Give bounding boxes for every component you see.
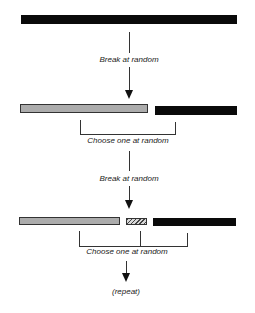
arrow-2-top-line (129, 151, 130, 171)
bracket-1-left (80, 120, 81, 135)
step-label-choose-2: Choose one at random (86, 247, 167, 256)
step-label-choose-1: Choose one at random (87, 136, 168, 145)
step-label-break-2: Break at random (99, 174, 158, 183)
piece-black-row2 (155, 106, 237, 115)
piece-gray-row2 (20, 104, 148, 113)
arrow-down-icon (125, 90, 133, 99)
initial-stick (21, 15, 237, 24)
bracket-2-right (187, 233, 188, 247)
arrow-down-icon (125, 200, 133, 209)
arrow-2-bottom-line (129, 186, 130, 200)
piece-black-row3 (153, 218, 236, 226)
bracket-2-left (79, 231, 80, 247)
arrow-1-top-line (129, 32, 130, 53)
arrow-1-bottom-line (129, 67, 130, 90)
stick-breaking-diagram: Break at random Choose one at random Bre… (0, 0, 255, 313)
piece-gray-row3 (19, 217, 120, 225)
piece-hatched-row3 (126, 218, 147, 225)
arrow-down-icon (122, 273, 130, 282)
bracket-2-middle (140, 231, 141, 247)
step-label-repeat: (repeat) (112, 287, 140, 296)
bracket-1-bottom (80, 134, 176, 135)
step-label-break-1: Break at random (99, 55, 158, 64)
